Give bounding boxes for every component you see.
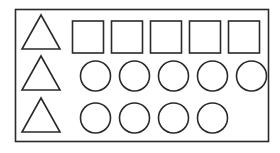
shape-row-1 (22, 15, 260, 53)
circle-shape (120, 61, 150, 91)
triangle-shape (22, 98, 60, 132)
shape-row-2 (22, 56, 267, 91)
circle-shape (81, 61, 111, 91)
triangle-shape (22, 15, 60, 49)
shape-rows (22, 15, 267, 133)
square-shape (73, 21, 104, 53)
square-shape (229, 21, 260, 53)
square-shape (151, 21, 182, 53)
shapes-diagram (0, 0, 280, 153)
square-shape (112, 21, 143, 53)
square-shape (190, 21, 221, 53)
circle-shape (81, 103, 111, 133)
circle-shape (120, 103, 150, 133)
triangle-shape (22, 56, 60, 90)
circle-shape (159, 103, 189, 133)
circle-shape (198, 61, 228, 91)
circle-shape (198, 103, 228, 133)
circle-shape (237, 61, 267, 91)
shape-row-3 (22, 98, 228, 133)
circle-shape (159, 61, 189, 91)
